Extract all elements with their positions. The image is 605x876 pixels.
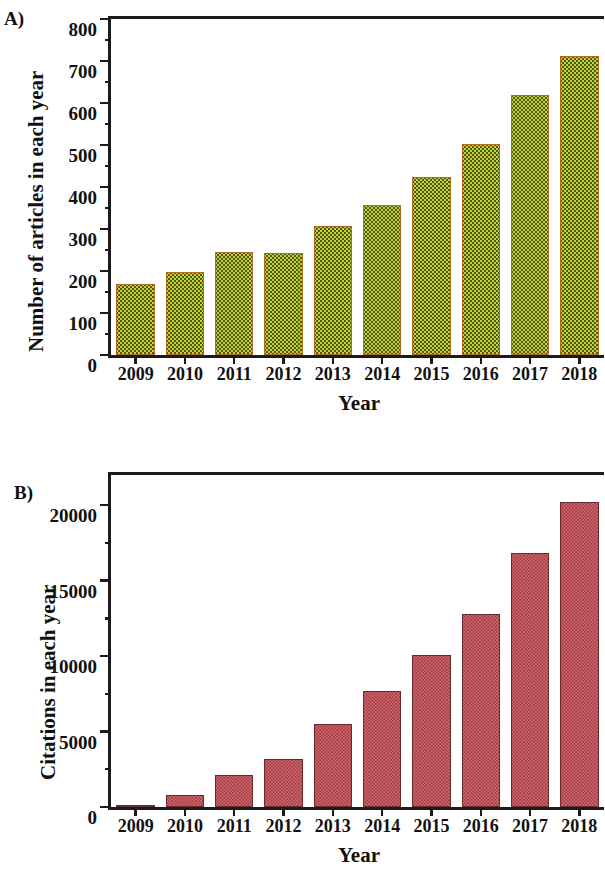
panel-a-bar-group [111,19,604,355]
x-tick [480,807,482,816]
x-tick [282,807,284,816]
y-tick-minor [105,542,111,544]
y-tick-major [100,730,111,732]
panel-b-x-axis-title: Year [111,843,605,868]
bar-2012 [264,253,302,355]
y-tick-major [100,60,111,62]
x-tick-label-2014: 2014 [364,364,400,385]
bar-2015 [412,177,450,356]
bar-2018 [560,56,598,355]
y-tick-minor [105,123,111,125]
bar-2014 [363,205,401,355]
bar-2016 [462,144,500,355]
x-tick-label-2016: 2016 [463,816,499,837]
x-tick-label-2013: 2013 [315,816,351,837]
x-tick [430,807,432,816]
y-tick-minor [105,207,111,209]
x-tick [134,807,136,816]
bar-2010 [166,272,204,355]
panel-a-plot-area: 0100200300400500600700800 20092010201120… [108,16,604,358]
bar-2013 [314,724,352,807]
bar-2011 [215,252,253,355]
x-tick [184,807,186,816]
y-tick-major [100,270,111,272]
y-tick-minor [105,291,111,293]
bar-2010 [166,795,204,807]
x-tick-label-2016: 2016 [463,364,499,385]
y-tick-minor [105,693,111,695]
panel-a-letter: A) [4,8,24,30]
y-tick-minor [105,39,111,41]
bar-2011 [215,775,253,807]
panel-b-letter: B) [14,482,33,504]
x-tick-label-2012: 2012 [266,364,302,385]
x-tick [332,355,334,364]
bar-2012 [264,759,302,807]
panel-a-y-axis-title: Number of articles in each year [24,71,49,352]
y-tick-major [100,354,111,356]
bar-2013 [314,226,352,355]
panel-b-plot-area: 05000100001500020000 2009201020112012201… [108,472,604,810]
bar-2017 [511,553,549,807]
x-tick [134,355,136,364]
x-tick [529,807,531,816]
y-tick-minor [105,768,111,770]
x-tick-label-2013: 2013 [315,364,351,385]
x-tick [480,355,482,364]
y-tick-minor [105,617,111,619]
y-tick-major [100,312,111,314]
y-tick-minor [105,165,111,167]
bar-2018 [560,502,598,807]
y-tick-major [100,504,111,506]
x-tick [529,355,531,364]
y-tick-minor [105,333,111,335]
chart-panel-a: A) Number of articles in each year 01002… [0,0,605,440]
x-tick [578,807,580,816]
x-tick [332,807,334,816]
x-tick-label-2014: 2014 [364,816,400,837]
bar-2009 [116,284,154,355]
bar-2014 [363,691,401,807]
x-tick-label-2011: 2011 [217,364,252,385]
x-tick [381,355,383,364]
panel-a-x-axis-title: Year [111,391,605,416]
y-tick-major [100,186,111,188]
x-tick-label-2010: 2010 [167,364,203,385]
x-tick-label-2017: 2017 [512,364,548,385]
x-tick [430,355,432,364]
y-tick-major [100,655,111,657]
y-tick-major [100,806,111,808]
y-tick-minor [105,81,111,83]
bar-2016 [462,614,500,807]
x-tick [233,355,235,364]
x-tick-label-2018: 2018 [561,816,597,837]
y-tick-major [100,102,111,104]
y-tick-major [100,579,111,581]
bar-2015 [412,655,450,807]
x-tick-label-2010: 2010 [167,816,203,837]
panel-b-bar-group [111,475,604,807]
y-tick-major [100,18,111,20]
x-tick-label-2009: 2009 [118,816,154,837]
x-tick-label-2017: 2017 [512,816,548,837]
x-tick-label-2018: 2018 [561,364,597,385]
x-tick [578,355,580,364]
x-tick-label-2015: 2015 [413,816,449,837]
bar-2017 [511,95,549,355]
x-tick-label-2011: 2011 [217,816,252,837]
x-tick-label-2015: 2015 [413,364,449,385]
x-tick [381,807,383,816]
x-tick [282,355,284,364]
y-tick-major [100,144,111,146]
panel-b-y-axis-title: Citations in each year [36,585,61,780]
figure-root: A) Number of articles in each year 01002… [0,0,605,876]
x-tick [184,355,186,364]
y-tick-major [100,228,111,230]
x-tick-label-2012: 2012 [266,816,302,837]
y-tick-minor [105,249,111,251]
x-tick-label-2009: 2009 [118,364,154,385]
chart-panel-b: B) Citations in each year 05000100001500… [0,440,605,876]
x-tick [233,807,235,816]
